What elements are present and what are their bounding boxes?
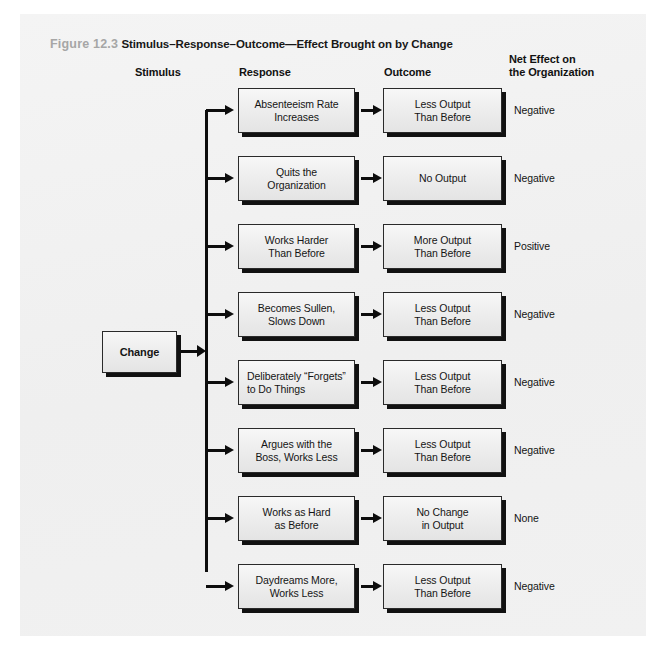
response-box[interactable]: Argues with theBoss, Works Less — [238, 428, 355, 473]
outcome-box-label: No Output — [415, 172, 470, 185]
arrowhead-trunk-to-response — [225, 241, 234, 251]
arrowhead-response-to-outcome — [373, 445, 382, 455]
outcome-line-1: More Output — [414, 234, 471, 247]
response-line-2: Slows Down — [258, 315, 335, 328]
column-header-stimulus: Stimulus — [135, 66, 181, 79]
response-line-1: Works as Hard — [263, 506, 331, 519]
arrowhead-response-to-outcome — [373, 173, 382, 183]
arrowhead-trunk-to-response — [225, 581, 234, 591]
arrowhead-response-to-outcome — [373, 309, 382, 319]
column-header-net-effect: Net Effect on the Organization — [509, 53, 594, 79]
arrowhead-response-to-outcome — [373, 581, 382, 591]
response-box[interactable]: Works as Hardas Before — [238, 496, 355, 541]
outcome-box-label: Less OutputThan Before — [410, 302, 475, 327]
outcome-line-2: Than Before — [414, 587, 471, 600]
response-box-label: Absenteeism RateIncreases — [250, 98, 342, 123]
outcome-line-2: Than Before — [414, 247, 471, 260]
outcome-box[interactable]: No Changein Output — [383, 496, 502, 541]
column-header-outcome: Outcome — [384, 66, 431, 79]
outcome-line-1: Less Output — [414, 98, 471, 111]
response-box[interactable]: Absenteeism RateIncreases — [238, 88, 355, 133]
response-box-label: Works HarderThan Before — [261, 234, 332, 259]
response-line-1: Argues with the — [255, 438, 337, 451]
arrowhead-trunk-to-response — [225, 377, 234, 387]
response-box-label: Becomes Sullen,Slows Down — [254, 302, 339, 327]
outcome-box-label: Less OutputThan Before — [410, 438, 475, 463]
outcome-line-2: Than Before — [414, 451, 471, 464]
outcome-box-label: Less OutputThan Before — [410, 574, 475, 599]
response-line-1: Daydreams More, — [256, 574, 338, 587]
net-effect-label: Negative — [514, 172, 555, 184]
response-line-1: Works Harder — [265, 234, 328, 247]
outcome-line-2: Than Before — [414, 383, 471, 396]
outcome-box-label: Less OutputThan Before — [410, 370, 475, 395]
figure-title: Stimulus–Response–Outcome—Effect Brought… — [121, 38, 452, 50]
response-line-2: Than Before — [265, 247, 328, 260]
outcome-box[interactable]: Less OutputThan Before — [383, 292, 502, 337]
outcome-box-label: No Changein Output — [412, 506, 472, 531]
outcome-line-2: Than Before — [414, 315, 471, 328]
response-box-label: Works as Hardas Before — [259, 506, 335, 531]
arrowhead-trunk-to-response — [225, 173, 234, 183]
outcome-box[interactable]: Less OutputThan Before — [383, 88, 502, 133]
arrowhead-trunk-to-response — [225, 513, 234, 523]
response-box[interactable]: Becomes Sullen,Slows Down — [238, 292, 355, 337]
response-line-2: Boss, Works Less — [255, 451, 337, 464]
stimulus-box-change[interactable]: Change — [102, 331, 177, 373]
outcome-box-label: More OutputThan Before — [410, 234, 475, 259]
outcome-box[interactable]: Less OutputThan Before — [383, 564, 502, 609]
outcome-line-1: No Change — [416, 506, 468, 519]
outcome-box[interactable]: Less OutputThan Before — [383, 360, 502, 405]
figure-caption: Figure 12.3 Stimulus–Response–Outcome—Ef… — [50, 37, 453, 51]
response-line-1: Absenteeism Rate — [254, 98, 338, 111]
arrowhead-response-to-outcome — [373, 105, 382, 115]
outcome-line-1: Less Output — [414, 574, 471, 587]
outcome-line-1: No Output — [419, 172, 466, 185]
outcome-line-2: in Output — [416, 519, 468, 532]
outcome-box-label: Less OutputThan Before — [410, 98, 475, 123]
net-effect-label: Negative — [514, 104, 555, 116]
outcome-box[interactable]: More OutputThan Before — [383, 224, 502, 269]
column-header-response: Response — [239, 66, 291, 79]
outcome-line-1: Less Output — [414, 438, 471, 451]
outcome-box[interactable]: Less OutputThan Before — [383, 428, 502, 473]
response-line-2: to Do Things — [247, 383, 346, 396]
response-line-2: Works Less — [256, 587, 338, 600]
net-effect-label: Positive — [514, 240, 550, 252]
response-line-1: Deliberately “Forgets” — [247, 370, 346, 383]
arrowhead-trunk-to-response — [225, 105, 234, 115]
figure-number: Figure 12.3 — [50, 37, 118, 51]
net-effect-label: Negative — [514, 376, 555, 388]
net-effect-header-line1: Net Effect on — [509, 53, 594, 66]
response-box-label: Quits theOrganization — [263, 166, 329, 191]
response-line-2: Organization — [267, 179, 325, 192]
response-box-label: Deliberately “Forgets”to Do Things — [239, 370, 350, 395]
arrowhead-trunk-to-response — [225, 309, 234, 319]
outcome-box[interactable]: No Output — [383, 156, 502, 201]
figure-panel: Figure 12.3 Stimulus–Response–Outcome—Ef… — [20, 14, 646, 636]
response-box-label: Argues with theBoss, Works Less — [251, 438, 341, 463]
net-effect-label: Negative — [514, 580, 555, 592]
response-box[interactable]: Quits theOrganization — [238, 156, 355, 201]
response-box[interactable]: Works HarderThan Before — [238, 224, 355, 269]
ghost-text-artifact — [330, 0, 669, 10]
net-effect-header-line2: the Organization — [509, 66, 594, 79]
response-line-1: Becomes Sullen, — [258, 302, 335, 315]
arrowhead-trunk-to-response — [225, 445, 234, 455]
response-box[interactable]: Daydreams More,Works Less — [238, 564, 355, 609]
arrowhead-response-to-outcome — [373, 513, 382, 523]
net-effect-label: None — [514, 512, 539, 524]
net-effect-label: Negative — [514, 308, 555, 320]
outcome-line-1: Less Output — [414, 370, 471, 383]
response-line-1: Quits the — [267, 166, 325, 179]
arrowhead-response-to-outcome — [373, 241, 382, 251]
response-line-2: as Before — [263, 519, 331, 532]
outcome-line-2: Than Before — [414, 111, 471, 124]
net-effect-label: Negative — [514, 444, 555, 456]
arrowhead-response-to-outcome — [373, 377, 382, 387]
response-line-2: Increases — [254, 111, 338, 124]
outcome-line-1: Less Output — [414, 302, 471, 315]
response-box[interactable]: Deliberately “Forgets”to Do Things — [238, 360, 355, 405]
stimulus-box-label: Change — [116, 346, 164, 359]
response-box-label: Daydreams More,Works Less — [252, 574, 342, 599]
